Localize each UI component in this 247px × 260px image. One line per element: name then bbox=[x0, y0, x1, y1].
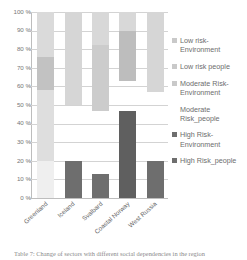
bar-group[interactable] bbox=[92, 12, 109, 198]
y-axis-tick-label: 30 % bbox=[3, 139, 31, 145]
legend-label: Low risk-Environment bbox=[180, 36, 247, 54]
bar-segment[interactable] bbox=[37, 90, 54, 161]
y-axis-tick-label: 10 % bbox=[3, 176, 31, 182]
bar-group[interactable] bbox=[119, 12, 136, 198]
legend-swatch bbox=[172, 64, 177, 69]
legend-swatch bbox=[172, 38, 177, 43]
bar-segment[interactable] bbox=[92, 174, 109, 198]
figure-caption: Table 7: Change of sectors with differen… bbox=[14, 250, 244, 260]
y-axis-tick-label: 40 % bbox=[3, 120, 31, 126]
bar-segment[interactable] bbox=[119, 12, 136, 31]
legend-label: Moderate Risk-Environment bbox=[180, 79, 247, 97]
bar-segment[interactable] bbox=[65, 12, 82, 105]
x-axis-label: Coastal Norway bbox=[81, 200, 130, 245]
bar-segment[interactable] bbox=[37, 57, 54, 90]
figure-container: 100 %90 %80 %70 %60 %50 %40 %30 %20 %10 … bbox=[0, 0, 247, 260]
bar-segment[interactable] bbox=[147, 161, 164, 198]
bar-segment[interactable] bbox=[37, 12, 54, 57]
gridline bbox=[31, 198, 168, 199]
x-axis-label: Svalbard bbox=[54, 200, 103, 245]
y-axis-tick-label: 20 % bbox=[3, 158, 31, 164]
bar-segment[interactable] bbox=[92, 12, 109, 45]
y-axis-tick-label: 50 % bbox=[3, 102, 31, 108]
y-axis-tick-label: 70 % bbox=[3, 65, 31, 71]
legend-swatch bbox=[172, 132, 177, 137]
legend-item[interactable]: High Risk-Environment bbox=[172, 130, 247, 148]
legend-swatch bbox=[172, 107, 177, 112]
chart-legend: Low risk-EnvironmentLow risk peopleModer… bbox=[172, 36, 247, 173]
legend-label: Moderate Risk_people bbox=[180, 105, 247, 123]
bar-segment[interactable] bbox=[119, 111, 136, 198]
y-axis-tick-label: 0 % bbox=[3, 195, 31, 201]
bar-segment[interactable] bbox=[119, 31, 136, 81]
legend-swatch bbox=[172, 81, 177, 86]
bar-segment[interactable] bbox=[147, 12, 164, 92]
legend-item[interactable]: Low risk people bbox=[172, 62, 247, 71]
x-axis-labels: GreenlandIcelandSvalbardCoastal NorwayWe… bbox=[31, 200, 168, 246]
bar-group[interactable] bbox=[65, 12, 82, 198]
bar-segment[interactable] bbox=[37, 161, 54, 198]
legend-item[interactable]: Moderate Risk_people bbox=[172, 105, 247, 123]
x-axis-label: West Russia bbox=[109, 200, 158, 245]
legend-item[interactable]: Low risk-Environment bbox=[172, 36, 247, 54]
legend-item[interactable]: High Risk_people bbox=[172, 156, 247, 165]
y-axis-tick-label: 80 % bbox=[3, 46, 31, 52]
y-axis-tick-label: 60 % bbox=[3, 83, 31, 89]
plot-area bbox=[31, 12, 168, 198]
y-axis-tick-label: 100 % bbox=[3, 9, 31, 15]
bar-group[interactable] bbox=[37, 12, 54, 198]
legend-swatch bbox=[172, 158, 177, 163]
bar-group[interactable] bbox=[147, 12, 164, 198]
y-axis-tick-label: 90 % bbox=[3, 27, 31, 33]
x-axis-label: Iceland bbox=[27, 200, 76, 245]
bar-segment[interactable] bbox=[92, 45, 109, 110]
bar-segment[interactable] bbox=[65, 161, 82, 198]
legend-label: High Risk_people bbox=[180, 156, 236, 165]
legend-label: High Risk-Environment bbox=[180, 130, 247, 148]
legend-label: Low risk people bbox=[180, 62, 230, 71]
legend-item[interactable]: Moderate Risk-Environment bbox=[172, 79, 247, 97]
